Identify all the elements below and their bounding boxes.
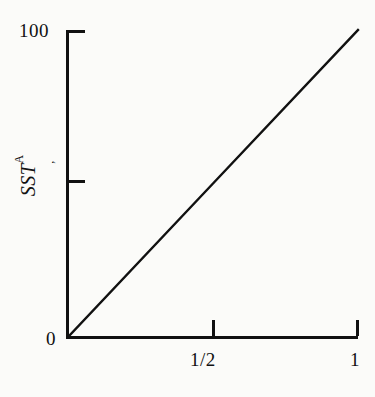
y-tick-50 [69, 180, 85, 183]
y-axis-title-base: T [17, 164, 39, 176]
y-axis-title-superscript: A [13, 154, 25, 163]
x-tick-one [356, 320, 359, 336]
x-tick-label-one: 1 [350, 350, 360, 369]
x-axis-line [66, 336, 358, 339]
chart-figure: 100 0 1/2 1 SSTA, [0, 0, 375, 397]
x-tick-label-half: 1/2 [190, 350, 216, 369]
y-tick-100 [69, 30, 85, 33]
y-axis-line [66, 30, 69, 339]
y-axis-title-symbol: SS [17, 175, 39, 196]
y-axis-title: SSTA, [17, 136, 40, 216]
y-axis-title-subscript: , [42, 160, 54, 164]
y-tick-label-100: 100 [19, 21, 49, 40]
data-series-line [68, 30, 358, 337]
x-tick-half [212, 320, 215, 336]
y-tick-label-0: 0 [46, 329, 56, 348]
